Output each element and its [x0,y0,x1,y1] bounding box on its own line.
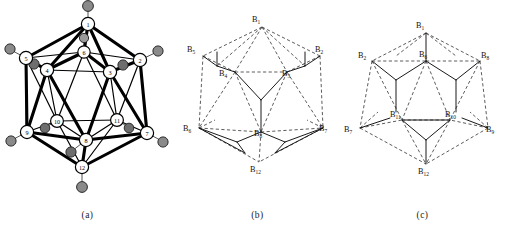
vertex-label-b6: B6 [183,124,191,134]
panel-a-stage: 1 2 3 4 5 [0,0,175,196]
vertex-7: 7 [140,126,153,139]
vertex-label-b7: B7 [319,124,327,134]
panel-b-dashed-edges [199,27,323,162]
panel-b-stage: B1 B5 B2 B4 B3 B6 B7 B8 B12 [175,0,340,196]
vertex-label-b5: B5 [187,45,195,55]
vertex-label: 10 [54,118,60,125]
vertex-label: 12 [79,164,85,171]
vertex-label-b2: B2 [358,51,366,61]
vertex-label-b4: B4 [219,69,227,79]
vertex-9: 9 [20,125,33,138]
vertex-label: 8 [84,137,87,144]
vertex-label-b2: B2 [315,45,323,55]
panel-a-drawing: 1 2 3 4 5 [0,0,175,196]
panel-b-caption: (b) [175,210,340,220]
vertex-label: 3 [108,69,111,76]
vertex-label: 1 [86,21,89,28]
vertex-2: 2 [133,53,146,66]
panel-c-labels: B1 B2 B6 B8 B7 B11 B10 B9 B12 [344,21,494,177]
vertex-5: 5 [19,51,32,64]
panel-a: 1 2 3 4 5 [0,0,175,226]
vertex-label: 4 [45,67,48,74]
vertex-1: 1 [81,17,94,30]
panel-c: B1 B2 B6 B8 B7 B11 B10 B9 B12 (c) [338,0,507,226]
vertex-label-b7: B7 [344,125,352,135]
vertex-label: 6 [82,49,85,56]
vertex-8: 8 [79,133,92,146]
vertex-label-b9: B9 [486,125,494,135]
panel-c-stage: B1 B2 B6 B8 B7 B11 B10 B9 B12 [338,0,507,196]
vertex-3: 3 [103,65,116,78]
vertex-12: 12 [75,160,88,173]
vertex-label: 9 [25,129,28,136]
figure-icosahedral-b12: 1 2 3 4 5 [0,0,507,226]
vertex-label-b1: B1 [416,21,424,31]
vertex-11: 11 [111,114,124,127]
panel-c-drawing: B1 B2 B6 B8 B7 B11 B10 B9 B12 [338,0,507,196]
vertex-label-b12: B12 [418,167,429,177]
vertex-10: 10 [51,115,64,128]
vertex-label: 11 [114,117,120,124]
vertex-label-b11: B11 [390,110,401,120]
panel-c-caption: (c) [338,210,507,220]
vertex-label: 7 [145,130,148,137]
vertex-6: 6 [78,46,90,58]
vertex-4: 4 [40,63,53,76]
vertex-label-b1: B1 [252,15,260,25]
vertex-label: 5 [24,55,27,62]
vertex-label: 2 [138,57,141,64]
vertex-label-b8: B8 [481,51,489,61]
panel-b-drawing: B1 B5 B2 B4 B3 B6 B7 B8 B12 [175,0,340,196]
panel-a-caption: (a) [0,210,175,220]
vertex-label-b12: B12 [250,165,261,175]
panel-b: B1 B5 B2 B4 B3 B6 B7 B8 B12 (b) [175,0,340,226]
